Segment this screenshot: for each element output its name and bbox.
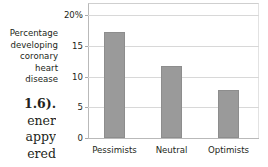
bar-pessimists <box>104 32 125 138</box>
y-axis-tick-label: 20% <box>64 10 83 20</box>
y-axis-tick <box>85 15 88 16</box>
y-axis-title-line: developing <box>0 40 58 52</box>
figure-page: 1.6). ener appy ered Percentage developi… <box>0 0 268 167</box>
x-axis-label: Optimists <box>208 145 249 155</box>
gridline <box>88 15 259 16</box>
bar-neutral <box>161 66 182 138</box>
y-axis-tick-label: 10 <box>72 72 83 82</box>
y-axis-tick <box>85 46 88 47</box>
y-axis-title-line: heart disease <box>0 63 58 86</box>
y-axis-tick-label: 5 <box>78 102 83 112</box>
body-text-column: 1.6). ener appy ered <box>0 96 56 162</box>
x-axis-label: Neutral <box>156 145 188 155</box>
y-axis-title: Percentage developing coronary heart dis… <box>0 28 58 86</box>
body-text-line: ered <box>0 146 56 163</box>
y-axis-tick-label: 15 <box>72 41 83 51</box>
bar-chart: 05101520% PessimistsNeutralOptimists <box>88 3 259 139</box>
bar-optimists <box>218 90 239 138</box>
body-text-line: ener <box>0 113 56 130</box>
y-axis-tick <box>85 107 88 108</box>
y-axis-title-line: coronary <box>0 51 58 63</box>
y-axis-tick <box>85 77 88 78</box>
y-axis-title-line: Percentage <box>0 28 58 40</box>
y-axis-tick <box>85 138 88 139</box>
y-axis-tick-label: 0 <box>78 133 83 143</box>
gridline <box>88 138 259 139</box>
body-text-line: appy <box>0 129 56 146</box>
body-text-line: 1.6). <box>0 96 56 113</box>
x-axis-label: Pessimists <box>92 145 137 155</box>
